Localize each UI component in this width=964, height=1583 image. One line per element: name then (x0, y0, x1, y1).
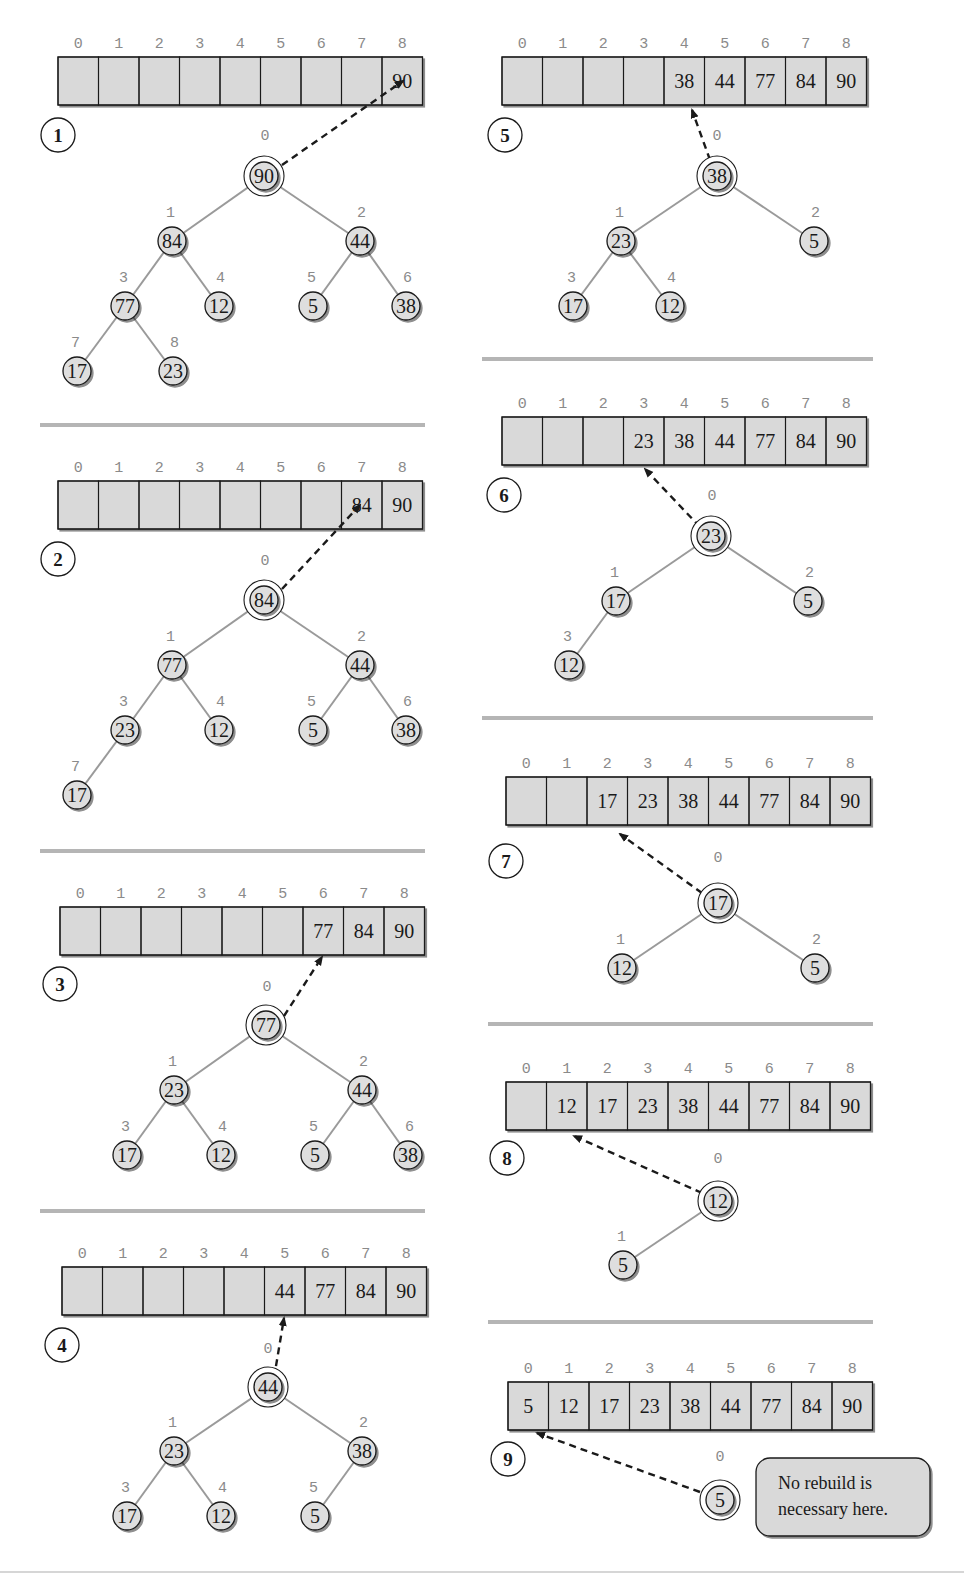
step-number: 7 (501, 851, 511, 872)
tree-node-index: 3 (563, 629, 572, 646)
step-number-badge: 6 (487, 478, 521, 512)
tree-node-value: 90 (254, 165, 274, 187)
array-index-label: 1 (114, 460, 123, 477)
array-cell-value: 77 (313, 920, 333, 942)
array-index-label: 0 (518, 36, 527, 53)
array-index-label: 4 (236, 460, 245, 477)
tree-node: 55 (301, 1119, 329, 1169)
tree-node-value: 77 (162, 654, 182, 676)
tree-node-index: 3 (121, 1119, 130, 1136)
array-index-label: 8 (842, 396, 851, 413)
tree-node: 173 (113, 1119, 141, 1169)
array-index-label: 5 (278, 886, 287, 903)
tree-nodes: 90084144277312455386177238 (63, 128, 420, 385)
array-index-label: 8 (398, 36, 407, 53)
array-cell-value: 77 (759, 790, 779, 812)
array-index-label: 2 (603, 756, 612, 773)
tree-node-index: 0 (712, 128, 721, 145)
tree-node-index: 0 (262, 979, 271, 996)
tree-node-index: 4 (216, 270, 225, 287)
array-index-label: 7 (357, 36, 366, 53)
array-index-label: 2 (155, 36, 164, 53)
array-index-label: 6 (765, 756, 774, 773)
array-cell-value: 77 (755, 70, 775, 92)
tree-node: 386 (392, 270, 420, 320)
array-index-label: 7 (805, 1061, 814, 1078)
tree-node-value: 44 (352, 1079, 372, 1101)
array-index-labels: 012345678 (518, 36, 851, 53)
array-cell-value: 90 (842, 1395, 862, 1417)
array-index-label: 4 (238, 886, 247, 903)
tree-node-index: 1 (616, 932, 625, 949)
array-cell-value: 38 (680, 1395, 700, 1417)
array-cell-value: 90 (392, 494, 412, 516)
array-cell-value: 77 (315, 1280, 335, 1302)
array-index-label: 1 (116, 886, 125, 903)
array-cell-value: 84 (354, 920, 374, 942)
array-index-label: 4 (680, 396, 689, 413)
array-cell-value: 12 (557, 1095, 577, 1117)
tree-node-value: 12 (660, 295, 680, 317)
array-index-labels: 012345678 (74, 460, 407, 477)
tree-node-index: 5 (307, 694, 316, 711)
step-number-badge: 5 (488, 118, 522, 152)
tree-node-index: 3 (121, 1480, 130, 1497)
tree-node-index: 0 (713, 1151, 722, 1168)
array-index-label: 8 (400, 886, 409, 903)
array-cell-value: 84 (800, 790, 820, 812)
step-number: 8 (502, 1148, 512, 1169)
tree-node-value: 23 (611, 230, 631, 252)
step-number-badge: 3 (43, 967, 77, 1001)
array: 44778490 (62, 1267, 427, 1315)
array-cell-value: 90 (394, 920, 414, 942)
tree-node-value: 77 (256, 1014, 276, 1036)
array-cell-value: 77 (759, 1095, 779, 1117)
array-cell-value: 84 (800, 1095, 820, 1117)
array-index-label: 0 (78, 1246, 87, 1263)
panel-step-4: 01234567844778490444023138217312455 (45, 1246, 427, 1530)
array-index-labels: 012345678 (524, 1361, 857, 1378)
array-index-label: 3 (643, 756, 652, 773)
array-index-label: 4 (236, 36, 245, 53)
tree-node-value: 12 (211, 1505, 231, 1527)
array-cell-value: 44 (715, 430, 735, 452)
tree-node-index: 4 (216, 694, 225, 711)
array-index-label: 5 (724, 1061, 733, 1078)
array-index-labels: 012345678 (76, 886, 409, 903)
array-cell-value: 44 (275, 1280, 295, 1302)
tree-node-value: 12 (708, 1190, 728, 1212)
array-index-label: 4 (686, 1361, 695, 1378)
tree-node: 382 (348, 1415, 376, 1465)
array-index-label: 2 (155, 460, 164, 477)
array-cell-value: 84 (796, 430, 816, 452)
tree-node-index: 0 (715, 1449, 724, 1466)
array-index-label: 4 (240, 1246, 249, 1263)
tree-node-index: 4 (667, 270, 676, 287)
tree-node-index: 1 (168, 1415, 177, 1432)
tree-node: 55 (299, 270, 327, 320)
tree-node: 55 (301, 1480, 329, 1530)
tree-node-value: 5 (310, 1505, 320, 1527)
tree-nodes: 12051 (609, 1151, 738, 1279)
array-cell-value: 90 (836, 70, 856, 92)
array-index-label: 5 (720, 396, 729, 413)
array-index-label: 4 (684, 756, 693, 773)
tree-node-index: 7 (71, 759, 80, 776)
tree-node-value: 44 (258, 1376, 278, 1398)
tree-node-index: 7 (71, 335, 80, 352)
array: 233844778490 (502, 417, 867, 465)
array-cell-value: 77 (755, 430, 775, 452)
array-index-labels: 012345678 (74, 36, 407, 53)
tree-node-index: 0 (707, 488, 716, 505)
step-number-badge: 1 (41, 118, 75, 152)
array-index-label: 4 (680, 36, 689, 53)
tree-node: 177 (63, 335, 91, 385)
array-cell-value: 23 (638, 790, 658, 812)
tree-node-index: 0 (260, 128, 269, 145)
array: 1217233844778490 (506, 1082, 871, 1130)
tree-node-value: 17 (563, 295, 583, 317)
array-index-label: 5 (280, 1246, 289, 1263)
panel-step-2: 0123456788490284077144223312455386177 (41, 460, 423, 809)
note-text-line1: No rebuild is (778, 1473, 872, 1493)
array-cell-value: 44 (719, 790, 739, 812)
